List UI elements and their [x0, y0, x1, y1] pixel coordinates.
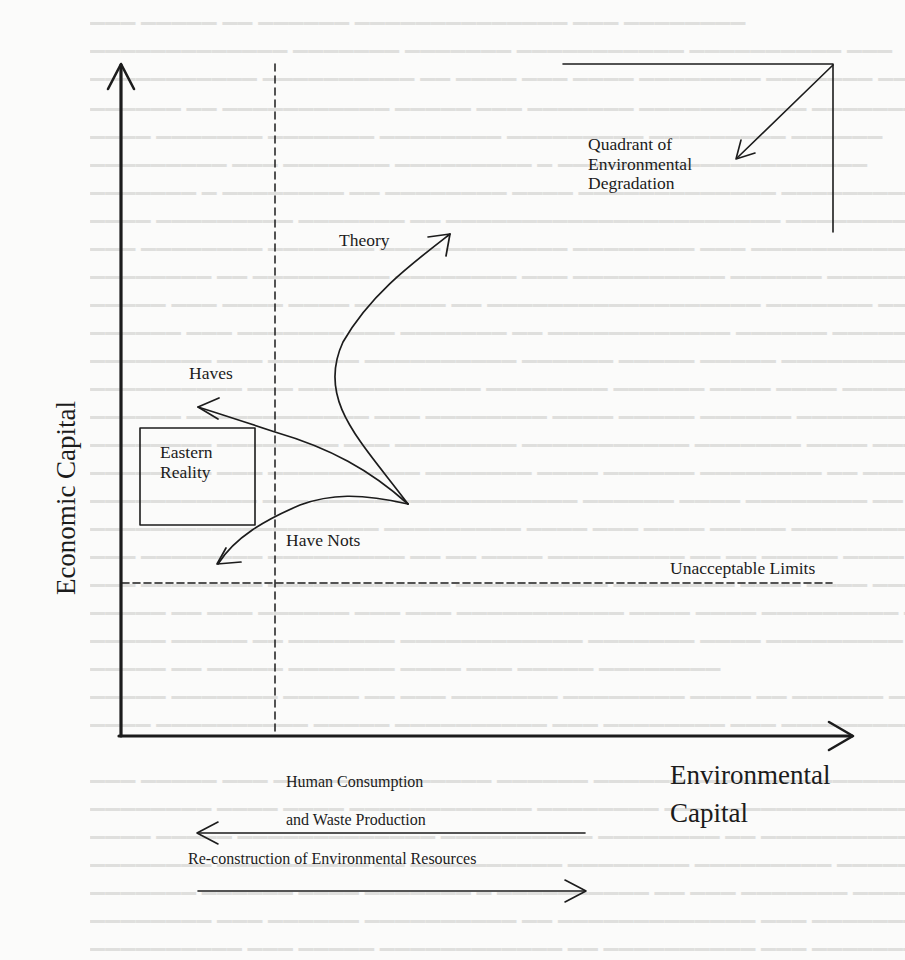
y-axis-label: Economic Capital [51, 401, 82, 595]
consumption-label-line: and Waste Production [286, 801, 426, 839]
theory-label: Theory [339, 231, 390, 251]
y-axis [108, 64, 134, 736]
quadrant-label: Quadrant of Environmental Degradation [588, 135, 692, 194]
arrow-left-icon [198, 398, 219, 419]
eastern-reality-label: Eastern Reality [160, 443, 212, 482]
x-axis-label-line: Environmental [670, 756, 830, 794]
quadrant-label-line: Degradation [588, 174, 692, 194]
x-axis [119, 722, 853, 750]
reconstruction-label: Re-construction of Environmental Resourc… [188, 850, 476, 868]
unacceptable-limits-label: Unacceptable Limits [670, 559, 815, 579]
x-axis-label-line: Capital [670, 794, 830, 832]
consumption-label-line: Human Consumption [286, 763, 426, 801]
eastern-reality-label-line: Eastern [160, 443, 212, 463]
x-axis-label: Environmental Capital [670, 756, 830, 832]
eastern-reality-label-line: Reality [160, 463, 212, 483]
haves-curve [198, 398, 408, 504]
have-nots-label: Have Nots [286, 531, 360, 551]
consumption-label: Human Consumption and Waste Production [286, 763, 426, 839]
reconstruction-flow-arrow [198, 880, 586, 902]
quadrant-label-line: Environmental [588, 155, 692, 175]
quadrant-label-line: Quadrant of [588, 135, 692, 155]
haves-label: Haves [189, 364, 233, 384]
